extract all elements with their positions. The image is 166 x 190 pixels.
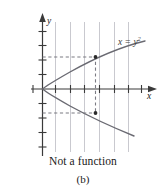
figure-sub-caption: (b) [0, 173, 166, 185]
figure-caption: Not a function [0, 155, 166, 167]
intersection-point-lower [94, 111, 98, 115]
x-axis [31, 85, 157, 93]
y-axis [39, 13, 47, 156]
curve-equation-label: x = y2 [117, 35, 142, 47]
curve-equation-base: x = y [117, 37, 138, 47]
curve-equation-exponent: 2 [138, 35, 142, 42]
y-axis-arrow-icon [39, 13, 46, 22]
y-axis-label: y [46, 16, 52, 26]
x-axis-label: x [146, 91, 152, 101]
figure-container: y x x = y2 Not a function (b) [0, 0, 166, 190]
intersection-point-upper [94, 55, 98, 59]
